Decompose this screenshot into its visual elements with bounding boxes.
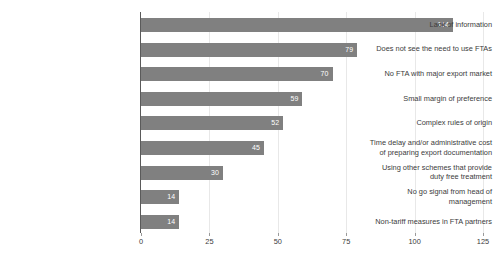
value-axis-tick-labels: 0255075100125 [141,236,483,250]
tick-label: 100 [408,236,420,248]
bar-value-label: 14 [167,190,175,204]
category-label: Complex rules of origin [361,118,497,127]
bar-row[interactable]: 52 [141,116,283,130]
value-axis-line [140,12,141,233]
bar-row[interactable]: 70 [141,67,333,81]
bar-value-label: 79 [345,43,353,57]
bar-chart: 1147970595245301414 Lack of informationD… [0,0,497,260]
bar[interactable] [141,43,357,57]
tick-label: 50 [274,236,282,248]
bar-value-label: 59 [290,92,298,106]
bar-value-label: 45 [252,141,260,155]
bar[interactable] [141,141,264,155]
category-label: Using other schemes that provide duty fr… [361,163,497,182]
bar-value-label: 14 [167,215,175,229]
category-label: No FTA with major export market [361,69,497,78]
bar-row[interactable]: 14 [141,190,179,204]
bar-value-label: 70 [321,67,329,81]
category-label: Non-tariff measures in FTA partners [361,217,497,226]
category-label: No go signal from head of management [361,187,497,206]
tick-label: 125 [477,236,489,248]
category-label: Time delay and/or administrative cost of… [361,138,497,157]
bar-row[interactable]: 59 [141,92,302,106]
category-label: Does not see the need to use FTAs [361,44,497,53]
bar-value-label: 52 [271,116,279,130]
bar-row[interactable]: 30 [141,166,223,180]
tick-label: 75 [342,236,350,248]
bar-row[interactable]: 79 [141,43,357,57]
category-label: Lack of information [361,20,497,29]
bar[interactable] [141,92,302,106]
category-label: Small margin of preference [361,94,497,103]
bar-row[interactable]: 14 [141,215,179,229]
bar[interactable] [141,116,283,130]
bar-value-label: 30 [211,166,219,180]
bar-row[interactable]: 45 [141,141,264,155]
tick-label: 25 [205,236,213,248]
bar[interactable] [141,67,333,81]
tick-label: 0 [139,236,143,248]
